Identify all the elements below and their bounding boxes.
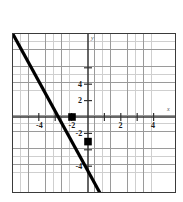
- x-tick-label-minus-4: -4: [36, 122, 43, 130]
- y-tick-label-2: 2: [78, 97, 82, 105]
- y-tick-label-minus-2: -2: [76, 130, 83, 138]
- y-tick-label-minus-4: -4: [76, 163, 83, 171]
- x-tick-label-minus-2: -2: [69, 122, 76, 130]
- plot-area: -4 -2 2 4 4 2 -2 -4 y x: [12, 33, 176, 193]
- x-tick-label-4: 4: [151, 122, 155, 130]
- x-tick-label-2: 2: [119, 122, 123, 130]
- y-axis-label: y: [91, 35, 94, 41]
- graph-figure: -4 -2 2 4 4 2 -2 -4 y x: [0, 0, 183, 202]
- x-axis-label: x: [167, 106, 170, 112]
- y-tick-label-4: 4: [78, 81, 82, 89]
- tick-labels-layer: -4 -2 2 4 4 2 -2 -4 y x: [12, 33, 176, 193]
